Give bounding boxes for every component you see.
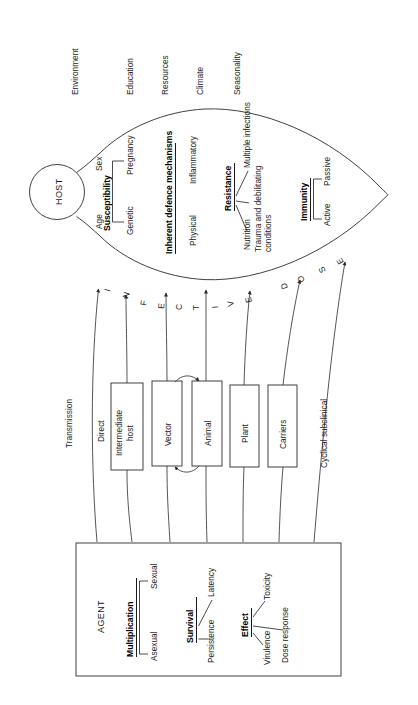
effect-item-dose-response: Dose response: [280, 607, 290, 663]
transmission-route-cyclical-subclinical: Cyclical subclinical: [319, 399, 329, 468]
host-title-label: HOST: [54, 178, 64, 205]
environment-label-education: Education: [125, 58, 135, 95]
resistance-heading: Resistance: [223, 165, 233, 211]
environment-label-seasonality: Seasonality: [232, 51, 242, 95]
effect-item-toxicity: Toxicity: [262, 572, 272, 600]
environment-label-environment: Environment: [70, 48, 80, 95]
effect-heading: Effect: [240, 613, 250, 637]
transmission-route-plant: Plant: [240, 423, 250, 443]
effect-item-virulence: Virulence: [262, 630, 272, 665]
environment-label-resources: Resources: [160, 55, 170, 95]
susceptibility-item-age: Age: [94, 214, 104, 229]
inherent-defence-item-physical: Physical: [188, 215, 198, 246]
susceptibility-item-genetic: Genetic: [125, 206, 135, 235]
transmission-heading: Transmission: [64, 399, 74, 448]
agent-box-group: AGENT Multiplication Asexual Sexual Surv…: [76, 543, 341, 676]
diagram-canvas: Environment Education Resources Climate …: [0, 0, 418, 705]
environment-label-climate: Climate: [195, 66, 205, 95]
immunity-item-active: Active: [322, 203, 332, 226]
multiplication-item-asexual: Asexual: [149, 631, 159, 661]
resistance-item-nutrition: Nutrition: [242, 219, 252, 250]
transmission-route-intermediate-line2: host: [125, 425, 135, 441]
susceptibility-item-sex: Sex: [94, 156, 104, 171]
transmission-route-direct: Direct: [96, 420, 106, 442]
survival-item-latency: Latency: [206, 567, 216, 597]
survival-item-persistence: Persistence: [206, 619, 216, 663]
multiplication-heading: Multiplication: [125, 602, 135, 657]
arc-letter-6: T: [191, 305, 201, 311]
transmission-route-intermediate-line1: Intermediate: [114, 409, 124, 456]
resistance-item-conditions: conditions: [263, 215, 273, 252]
multiplication-item-sexual: Sexual: [149, 563, 159, 589]
arc-letter-5: C: [174, 304, 184, 310]
agent-title-label: AGENT: [96, 600, 106, 633]
epidemiology-triad-diagram: Environment Education Resources Climate …: [0, 0, 418, 705]
inherent-defence-item-inflammatory: Inflammatory: [188, 135, 198, 184]
immunity-item-passive: Passive: [322, 157, 332, 186]
immunity-heading: Immunity: [299, 183, 309, 221]
transmission-route-vector: Vector: [163, 422, 173, 446]
transmission-route-animal: Animal: [203, 420, 213, 446]
transmission-route-carriers: Carriers: [278, 419, 288, 449]
inherent-defence-heading: Inherent defence mechanisms: [164, 131, 174, 254]
resistance-item-multiple-infections: Multiple infections: [242, 102, 252, 168]
arc-letter-4: E: [156, 302, 166, 309]
susceptibility-item-pregnancy: Pregnancy: [125, 134, 135, 175]
survival-heading: Survival: [185, 610, 195, 643]
resistance-item-trauma: Trauma and debilitating: [253, 165, 263, 252]
